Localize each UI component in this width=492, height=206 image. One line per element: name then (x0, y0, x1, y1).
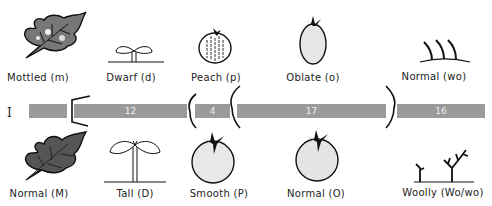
bracket-marker-3-icon (228, 84, 242, 130)
trait-label-normal-o: Normal (O) (287, 188, 345, 199)
trait-label-tall: Tall (D) (116, 188, 153, 199)
woolly-hairs-icon (414, 148, 474, 184)
normal-leaf-icon (20, 130, 90, 184)
segment-d: 17 (237, 104, 386, 118)
oblate-fruit-icon (298, 14, 328, 68)
smooth-fruit-icon (190, 130, 236, 184)
bracket-marker-4-icon (384, 84, 398, 130)
bracket-marker-1-icon (66, 94, 92, 128)
trait-label-oblate: Oblate (o) (286, 72, 339, 83)
trait-label-peach: Peach (p) (191, 72, 241, 83)
segment-a (29, 104, 67, 118)
dwarf-seedling-icon (108, 44, 164, 64)
mottled-leaf-icon (18, 10, 88, 66)
chromosome-label: I (7, 106, 12, 120)
normal-hairs-icon (420, 38, 470, 64)
trait-label-normal-m: Normal (M) (10, 188, 69, 199)
trait-label-smooth: Smooth (P) (190, 188, 249, 199)
trait-label-mottled: Mottled (m) (7, 72, 69, 83)
bracket-marker-2-icon (186, 92, 198, 130)
peach-fruit-icon (195, 26, 235, 66)
trait-label-normal-wo: Normal (wo) (402, 71, 467, 82)
segment-c: 4 (195, 104, 230, 118)
trait-label-dwarf: Dwarf (d) (106, 72, 156, 83)
normal-fruit-icon (294, 128, 340, 184)
segment-e: 16 (397, 104, 485, 118)
trait-label-woolly: Woolly (Wo/wo) (402, 187, 483, 198)
tall-seedling-icon (104, 140, 166, 184)
